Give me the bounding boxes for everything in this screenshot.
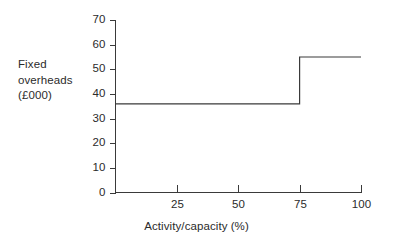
x-axis-tick-label: 25 [163, 198, 193, 210]
y-axis-tick-label: 30 [80, 112, 106, 124]
y-axis-tick-label: 10 [80, 161, 106, 173]
x-axis-title: Activity/capacity(%) [0, 220, 393, 232]
y-axis-tick-label: 20 [80, 136, 106, 148]
x-axis-ticks [178, 185, 362, 193]
x-axis-tick-label: 50 [224, 198, 254, 210]
y-axis-ticks [110, 21, 116, 194]
y-axis-tick-label: 70 [80, 13, 106, 25]
series-step-line [116, 57, 362, 104]
y-axis-tick-label: 60 [80, 38, 106, 50]
fixed-overheads-step-chart: Fixed overheads (£000) 010203040506070 2… [0, 0, 393, 250]
data-series [116, 57, 362, 104]
x-axis-title-unit: (%) [231, 220, 249, 232]
x-axis-tick-label: 100 [347, 198, 377, 210]
y-axis-tick-label: 40 [80, 87, 106, 99]
x-axis-title-text: Activity/capacity [144, 220, 228, 232]
y-axis-tick-label: 0 [80, 186, 106, 198]
plot-canvas [0, 0, 393, 250]
x-axis-tick-label: 75 [286, 198, 316, 210]
axes [116, 20, 362, 193]
y-axis-tick-label: 50 [80, 62, 106, 74]
